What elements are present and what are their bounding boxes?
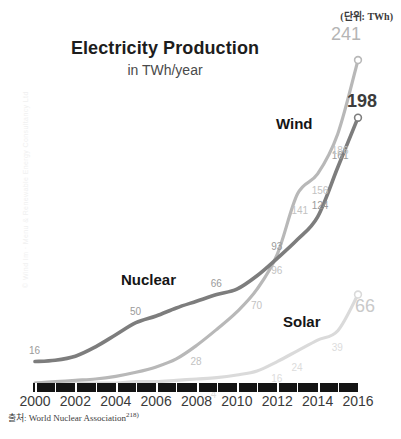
- point-label-nuclear-2009: 66: [211, 278, 222, 289]
- x-tick-2009: [217, 383, 218, 392]
- source-text: World Nuclear Association: [29, 413, 126, 423]
- x-tick-2015: [338, 383, 339, 392]
- point-label-wind-2008: 28: [191, 356, 202, 367]
- endpoint-marker-wind: [355, 57, 362, 64]
- x-tick-2003: [96, 383, 97, 392]
- series-line-wind: [35, 60, 358, 383]
- x-tick-2000: [35, 383, 37, 392]
- x-tick-2013: [297, 383, 298, 392]
- x-tick-2016: [358, 383, 360, 392]
- x-axis-bar: [33, 383, 360, 392]
- x-axis-labels: 200020022004200620082010201220142016: [0, 393, 401, 413]
- x-tick-2002: [75, 383, 77, 392]
- series-lines-layer: [35, 60, 358, 383]
- x-tick-2006: [156, 383, 158, 392]
- source-footnote: 218): [126, 411, 139, 419]
- x-axis-label-2000: 2000: [19, 393, 50, 409]
- endpoint-marker-nuclear: [355, 114, 362, 121]
- point-label-wind-2013: 141: [291, 205, 308, 216]
- x-axis-label-2014: 2014: [302, 393, 333, 409]
- x-tick-2008: [197, 383, 199, 392]
- series-label-solar: Solar: [283, 313, 321, 330]
- x-tick-2004: [116, 383, 118, 392]
- point-label-nuclear-2005: 50: [130, 306, 141, 317]
- electricity-production-chart: © Wind Im · Menu & Renewable Energy Cons…: [0, 0, 401, 439]
- point-label-solar-2015: 39: [332, 342, 343, 353]
- end-value-solar: 66: [355, 296, 375, 317]
- x-tick-2011: [257, 383, 258, 392]
- series-label-wind: Wind: [276, 115, 313, 132]
- series-label-nuclear: Nuclear: [121, 271, 176, 288]
- point-label-solar-2012: 16: [271, 373, 282, 384]
- point-label-solar-2013: 24: [291, 362, 302, 373]
- end-value-nuclear: 198: [347, 91, 377, 112]
- x-tick-2012: [277, 383, 279, 392]
- series-line-solar: [35, 295, 358, 384]
- x-axis-label-2016: 2016: [342, 393, 373, 409]
- point-label-wind-2012: 96: [271, 265, 282, 276]
- source-credit: 출처: World Nuclear Association218): [8, 411, 139, 424]
- x-axis-label-2002: 2002: [60, 393, 91, 409]
- x-axis-label-2012: 2012: [262, 393, 293, 409]
- end-value-wind: 241: [331, 24, 361, 45]
- x-tick-2014: [318, 383, 320, 392]
- plot-area: [0, 0, 401, 439]
- x-axis-label-2004: 2004: [100, 393, 131, 409]
- point-label-nuclear-2014: 124: [312, 200, 329, 211]
- x-axis-label-2006: 2006: [141, 393, 172, 409]
- point-label-wind-2011: 70: [251, 300, 262, 311]
- x-tick-2001: [55, 383, 56, 392]
- x-tick-2005: [136, 383, 137, 392]
- x-tick-2010: [237, 383, 239, 392]
- point-label-wind-2015: 186: [332, 145, 349, 156]
- point-label-wind-2014: 156: [312, 185, 329, 196]
- source-prefix: 출처:: [8, 413, 27, 423]
- x-tick-2007: [176, 383, 177, 392]
- point-label-nuclear-2012: 93: [271, 241, 282, 252]
- x-axis-label-2008: 2008: [181, 393, 212, 409]
- point-label-nuclear-2000: 16: [29, 345, 40, 356]
- x-axis-label-2010: 2010: [221, 393, 252, 409]
